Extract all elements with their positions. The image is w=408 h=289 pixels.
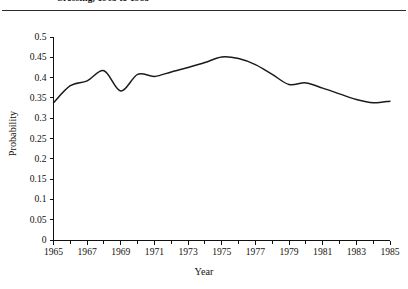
y-axis-title: Probability	[7, 89, 18, 179]
x-tick-label: 1985	[370, 247, 408, 257]
y-tick-label: 0.05	[0, 215, 47, 225]
x-tick-major	[221, 241, 222, 245]
x-tick-minor	[171, 241, 172, 244]
x-tick-major	[390, 241, 391, 245]
x-tick-major	[188, 241, 189, 245]
y-tick	[50, 179, 54, 180]
x-axis-title: Year	[0, 266, 408, 277]
x-tick-minor	[339, 241, 340, 244]
x-tick-major	[53, 241, 54, 245]
x-tick-minor	[137, 241, 138, 244]
x-tick-minor	[103, 241, 104, 244]
x-tick-major	[255, 241, 256, 245]
x-tick-minor	[305, 241, 306, 244]
data-line-probability	[54, 57, 391, 103]
x-tick-minor	[70, 241, 71, 244]
x-tick-minor	[238, 241, 239, 244]
x-tick-minor	[204, 241, 205, 244]
y-axis-line	[53, 37, 54, 241]
x-tick-major	[154, 241, 155, 245]
y-tick	[50, 97, 54, 98]
x-tick-major	[356, 241, 357, 245]
y-tick-label: 0.45	[0, 52, 47, 62]
y-tick-label: 0	[0, 235, 47, 245]
y-tick-label: 0.4	[0, 73, 47, 83]
y-tick	[50, 158, 54, 159]
y-tick-label: 0.1	[0, 194, 47, 204]
y-tick	[50, 57, 54, 58]
y-tick	[50, 77, 54, 78]
y-tick	[50, 37, 54, 38]
y-tick	[50, 199, 54, 200]
x-tick-major	[87, 241, 88, 245]
x-tick-minor	[373, 241, 374, 244]
y-tick	[50, 118, 54, 119]
figure-container: Crossing, 1965 to 1985 00.050.10.150.20.…	[0, 0, 408, 289]
x-tick-major	[289, 241, 290, 245]
y-tick	[50, 219, 54, 220]
y-tick	[50, 138, 54, 139]
y-tick-label: 0.5	[0, 32, 47, 42]
plot-area: 00.050.10.150.20.250.30.350.40.450.51965…	[0, 0, 408, 289]
x-tick-major	[120, 241, 121, 245]
x-tick-minor	[272, 241, 273, 244]
x-tick-major	[322, 241, 323, 245]
